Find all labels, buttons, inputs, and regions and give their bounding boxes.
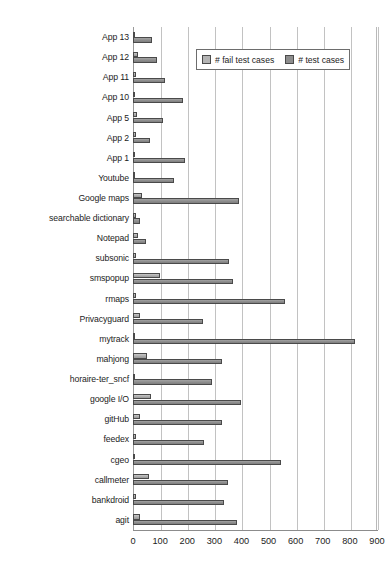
bar-fail-test-cases [133,72,136,77]
chart-row: Privacyguard [0,309,382,329]
bar-group [133,309,377,329]
x-tick-600: 600 [288,534,303,548]
bar-test-cases [133,198,239,203]
x-tick-300: 300 [207,534,222,548]
chart-row: cgeo [0,450,382,470]
bar-group [133,208,377,228]
bar-fail-test-cases [133,152,135,157]
category-label: App 11 [0,72,129,82]
chart-row: App 1 [0,148,382,168]
bar-fail-test-cases [133,454,135,459]
x-tick-200: 200 [180,534,195,548]
bar-fail-test-cases [133,112,137,117]
category-label: mytrack [0,334,129,344]
x-tick-0: 0 [130,534,135,548]
category-label: Google maps [0,193,129,203]
bar-fail-test-cases [133,333,135,338]
chart-row: Google maps [0,188,382,208]
bar-fail-test-cases [133,32,135,37]
category-label: Youtube [0,173,129,183]
category-label: App 12 [0,52,129,62]
bar-group [133,128,377,148]
bar-test-cases [133,520,237,525]
bar-test-cases [133,239,146,244]
bar-test-cases [133,400,241,405]
x-tick-400: 400 [234,534,249,548]
legend-item: # fail test cases [202,55,274,65]
bar-test-cases [133,500,224,505]
x-axis-tick-labels: 0100200300400500600700800900 [0,534,382,552]
category-label: Notepad [0,233,129,243]
bar-test-cases [133,118,163,123]
bar-fail-test-cases [133,374,135,379]
category-label: App 2 [0,133,129,143]
x-axis-line [133,530,378,531]
bar-group [133,349,377,369]
chart-row: smspopup [0,268,382,288]
bar-group [133,188,377,208]
bar-fail-test-cases [133,233,138,238]
bar-test-cases [133,218,140,223]
x-tick-100: 100 [152,534,167,548]
chart-row: mahjong [0,349,382,369]
bar-fail-test-cases [133,253,136,258]
bar-fail-test-cases [133,353,147,358]
bar-fail-test-cases [133,313,140,318]
category-label: searchable dictionary [0,213,129,223]
bar-test-cases [133,37,152,42]
legend-label: # fail test cases [215,55,274,65]
bar-group [133,27,377,47]
chart-row: agit [0,510,382,530]
category-label: horaire-ter_sncf [0,374,129,384]
bar-test-cases [133,440,204,445]
chart-row: mytrack [0,329,382,349]
bar-fail-test-cases [133,132,136,137]
bar-group [133,289,377,309]
chart-row: App 2 [0,128,382,148]
bar-test-cases [133,279,233,284]
category-label: rmaps [0,294,129,304]
chart-row: App 11 [0,67,382,87]
chart-row: bankdroid [0,490,382,510]
bar-test-cases [133,299,285,304]
x-tick-500: 500 [261,534,276,548]
bar-group [133,168,377,188]
bar-test-cases [133,98,183,103]
bar-fail-test-cases [133,434,136,439]
chart-row: Notepad [0,228,382,248]
bar-test-cases [133,480,228,485]
bar-fail-test-cases [133,514,140,519]
bar-fail-test-cases [133,193,142,198]
bar-group [133,429,377,449]
category-label: callmeter [0,475,129,485]
bar-test-cases [133,359,222,364]
bar-test-cases [133,138,150,143]
category-label: Privacyguard [0,314,129,324]
bar-fail-test-cases [133,474,149,479]
category-label: App 13 [0,32,129,42]
bar-test-cases [133,460,281,465]
category-label: google I/O [0,394,129,404]
bar-group [133,268,377,288]
category-label: subsonic [0,253,129,263]
category-label: gitHub [0,414,129,424]
x-tick-700: 700 [315,534,330,548]
bar-test-cases [133,339,355,344]
bar-fail-test-cases [133,394,151,399]
bar-test-cases [133,259,229,264]
bar-test-cases [133,57,157,62]
bar-group [133,510,377,530]
bar-group [133,329,377,349]
legend-swatch-icon [285,55,294,64]
bar-group [133,369,377,389]
chart-legend: # fail test cases# test cases [196,49,350,70]
bar-group [133,67,377,87]
category-label: mahjong [0,354,129,364]
bar-test-cases [133,158,185,163]
chart-row: Youtube [0,168,382,188]
category-label: App 1 [0,153,129,163]
category-label: smspopup [0,273,129,283]
chart-rows: App 13App 12App 11App 10App 5App 2App 1Y… [0,27,382,530]
bar-test-cases [133,420,222,425]
chart-row: horaire-ter_sncf [0,369,382,389]
